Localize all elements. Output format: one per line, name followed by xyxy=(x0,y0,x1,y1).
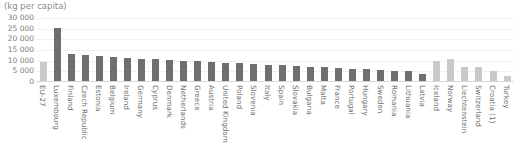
bar xyxy=(236,63,243,81)
y-tick-label: 25 000 xyxy=(8,25,34,33)
bar xyxy=(110,57,117,81)
x-label-cell: Latvia xyxy=(416,84,430,158)
x-label-cell: Spain xyxy=(275,84,289,158)
x-tick-label: Liechtenstein xyxy=(461,85,468,133)
bar-cell xyxy=(233,18,247,81)
bar xyxy=(335,68,342,81)
bar-cell xyxy=(275,18,289,81)
bar-cell xyxy=(78,18,92,81)
x-label-cell: Ireland xyxy=(120,84,134,158)
y-tick-label: 10 000 xyxy=(8,57,34,65)
x-label-cell: Bulgaria xyxy=(303,84,317,158)
x-tick-label: Latvia xyxy=(419,85,426,107)
x-label-cell: EU-27 xyxy=(36,84,50,158)
bar-cell xyxy=(36,18,50,81)
x-label-cell: Slovenia xyxy=(247,84,261,158)
bar-cell xyxy=(458,18,472,81)
x-tick-label: Slovenia xyxy=(250,85,257,116)
x-label-cell: Italy xyxy=(261,84,275,158)
bar-cell xyxy=(345,18,359,81)
x-tick-label: Luxembourg xyxy=(53,85,60,130)
x-tick-label: Poland xyxy=(236,85,243,109)
bar-cell xyxy=(219,18,233,81)
bar xyxy=(475,67,482,81)
bar-chart: (kg per capita) 30 00025 00020 00015 000… xyxy=(0,0,518,159)
bar-cell xyxy=(388,18,402,81)
y-axis-unit-caption: (kg per capita) xyxy=(4,1,67,12)
bar xyxy=(124,58,131,81)
x-tick-label: Finland xyxy=(67,85,74,111)
bar-series xyxy=(36,18,514,81)
x-label-cell: Croatia (1) xyxy=(486,84,500,158)
x-tick-label: France xyxy=(334,85,341,109)
plot-area xyxy=(36,18,514,82)
x-tick-label: Malta xyxy=(320,85,327,105)
x-tick-label: Hungary xyxy=(362,85,369,116)
bar xyxy=(208,62,215,81)
x-label-cell: Luxembourg xyxy=(50,84,64,158)
x-label-cell: Lithuania xyxy=(402,84,416,158)
x-tick-label: Norway xyxy=(447,85,454,112)
bar xyxy=(265,65,272,81)
x-tick-label: Denmark xyxy=(166,85,173,118)
bar xyxy=(461,67,468,81)
bar xyxy=(321,67,328,81)
x-label-cell: Slovakia xyxy=(289,84,303,158)
bar xyxy=(250,64,257,81)
x-tick-label: Netherlands xyxy=(180,85,187,129)
x-label-cell: Hungary xyxy=(359,84,373,158)
bar xyxy=(40,62,47,81)
x-label-cell: Germany xyxy=(134,84,148,158)
x-tick-label: Bulgaria xyxy=(306,85,313,115)
x-tick-label: Estonia xyxy=(95,85,102,111)
bar xyxy=(405,71,412,81)
bar xyxy=(419,74,426,81)
bar xyxy=(307,67,314,81)
x-label-cell: Denmark xyxy=(163,84,177,158)
bar xyxy=(279,65,286,81)
x-label-cell: Greece xyxy=(191,84,205,158)
bar xyxy=(166,60,173,81)
bar xyxy=(222,63,229,81)
y-tick-label: 0 xyxy=(29,78,34,86)
x-label-cell: Turkey xyxy=(500,84,514,158)
x-label-cell: Liechtenstein xyxy=(458,84,472,158)
x-tick-label: Spain xyxy=(278,85,285,105)
x-tick-label: EU-27 xyxy=(39,85,46,107)
bar-cell xyxy=(500,18,514,81)
bar xyxy=(96,56,103,81)
bar xyxy=(293,66,300,81)
bar-cell xyxy=(303,18,317,81)
bar xyxy=(363,69,370,81)
x-label-cell: Sweden xyxy=(374,84,388,158)
bar-cell xyxy=(247,18,261,81)
bar-cell xyxy=(331,18,345,81)
x-label-cell: Poland xyxy=(233,84,247,158)
y-axis-tick-labels: 30 00025 00020 00015 00010 0005 0000 xyxy=(0,18,34,82)
x-tick-label: United Kingdom xyxy=(222,85,229,143)
bar-cell xyxy=(92,18,106,81)
x-label-cell: Malta xyxy=(317,84,331,158)
x-tick-label: Romania xyxy=(391,85,398,116)
x-label-cell: Belgium xyxy=(106,84,120,158)
bar-cell xyxy=(177,18,191,81)
bar-cell xyxy=(191,18,205,81)
x-tick-label: Turkey xyxy=(503,85,510,108)
x-tick-label: Germany xyxy=(137,85,144,118)
y-tick-label: 20 000 xyxy=(8,35,34,43)
x-tick-label: Belgium xyxy=(109,85,116,114)
x-label-cell: Finland xyxy=(64,84,78,158)
bar-cell xyxy=(134,18,148,81)
bar xyxy=(377,70,384,81)
x-tick-label: Sweden xyxy=(377,85,384,113)
bar xyxy=(138,59,145,81)
bar xyxy=(447,59,454,81)
x-tick-label: Croatia (1) xyxy=(489,85,496,123)
bar-cell xyxy=(486,18,500,81)
bar-cell xyxy=(430,18,444,81)
bar-cell xyxy=(64,18,78,81)
x-label-cell: Austria xyxy=(205,84,219,158)
bar-cell xyxy=(106,18,120,81)
x-tick-label: Portugal xyxy=(348,85,355,115)
x-label-cell: Iceland xyxy=(430,84,444,158)
